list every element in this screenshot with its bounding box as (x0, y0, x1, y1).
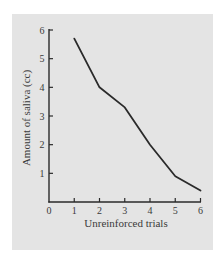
x-tick-label: 2 (97, 205, 102, 216)
y-tick-label: 1 (40, 168, 45, 179)
x-tick-label: 4 (148, 205, 153, 216)
saliva-data-line (74, 39, 200, 191)
x-tick-label: 6 (198, 205, 203, 216)
x-tick-label: 0 (47, 205, 52, 216)
x-tick-label: 1 (72, 205, 77, 216)
y-tick-label: 5 (40, 53, 45, 64)
axes (48, 29, 201, 203)
x-tick-labels: 0123456 (47, 205, 204, 216)
x-tick-label: 3 (122, 205, 127, 216)
x-axis-title: Unreinforced trials (84, 217, 167, 229)
y-tick-label: 6 (40, 25, 45, 36)
y-tick-label: 2 (40, 139, 45, 150)
y-axis-title: Amount of saliva (cc) (20, 70, 33, 167)
y-tick-labels: 123456 (40, 25, 45, 179)
y-tick-label: 3 (40, 111, 45, 122)
y-tick-label: 4 (40, 82, 45, 93)
line-chart: 123456 0123456 Unreinforced trials Amoun… (0, 0, 224, 264)
x-tick-label: 5 (173, 205, 178, 216)
